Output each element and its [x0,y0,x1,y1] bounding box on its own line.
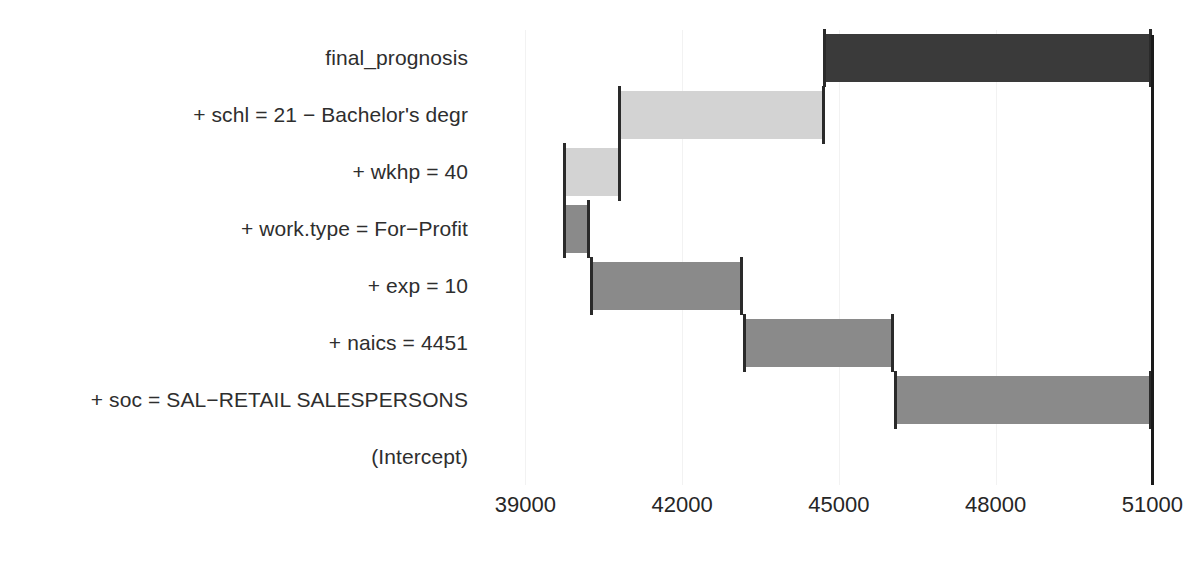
gridline-39000 [525,30,526,485]
row-label-7: (Intercept) [0,446,468,467]
x-tick-45000: 45000 [808,492,869,518]
bar-edge-left [618,86,621,144]
bar-3[interactable] [563,205,590,253]
bar-1[interactable] [618,91,824,139]
x-tick-42000: 42000 [652,492,713,518]
bar-edge-right [822,86,825,144]
plot-area [468,30,1168,485]
bar-edge-right [740,257,743,315]
gridline-45000 [839,30,840,485]
bar-6[interactable] [894,376,1152,424]
row-label-1: + schl = 21 − Bachelor's degr [0,104,468,125]
bar-edge-left [563,200,566,258]
row-label-5: + naics = 4451 [0,332,468,353]
row-label-4: + exp = 10 [0,275,468,296]
bar-edge-right [618,143,621,201]
row-label-2: + wkhp = 40 [0,161,468,182]
bar-edge-right [587,200,590,258]
row-label-3: + work.type = For−Profit [0,218,468,239]
bar-edge-left [823,29,826,87]
row-label-6: + soc = SAL−RETAIL SALESPERSONS [0,389,468,410]
x-tick-48000: 48000 [965,492,1026,518]
bar-edge-right [891,314,894,372]
bar-edge-left [894,371,897,429]
category-axis-labels: final_prognosis+ schl = 21 − Bachelor's … [0,0,468,495]
bar-edge-left [590,257,593,315]
x-axis-tick-labels: 3900042000450004800051000 [468,492,1168,532]
x-tick-51000: 51000 [1122,492,1183,518]
x-tick-39000: 39000 [495,492,556,518]
bar-2[interactable] [563,148,621,196]
bar-5[interactable] [743,319,894,367]
bar-0[interactable] [823,34,1152,82]
bar-4[interactable] [590,262,744,310]
final-value-axis-line [1151,35,1154,485]
bar-edge-left [563,143,566,201]
row-label-0: final_prognosis [0,47,468,68]
bar-edge-left [743,314,746,372]
